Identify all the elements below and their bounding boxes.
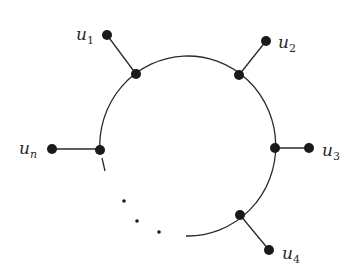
cycle-vertex-n xyxy=(95,145,105,155)
pendant-vertex-un xyxy=(47,144,57,154)
label-un: un xyxy=(19,138,37,161)
label-u2: u2 xyxy=(278,32,296,55)
label-u4: u4 xyxy=(282,243,300,266)
label-u1: u1 xyxy=(76,24,94,47)
pendant-vertex-u2 xyxy=(261,36,271,46)
pendant-vertex-u1 xyxy=(102,30,112,40)
cycle-vertex-1 xyxy=(131,69,141,79)
cycle-arc-stub xyxy=(102,158,105,171)
label-u3: u3 xyxy=(322,140,340,163)
cycle-vertex-4 xyxy=(235,210,245,220)
ellipsis-dot-1 xyxy=(122,199,126,203)
pendant-vertex-u4 xyxy=(264,245,274,255)
pendant-vertex-u3 xyxy=(304,143,314,153)
ellipsis-dot-3 xyxy=(157,230,161,234)
cycle-arc xyxy=(100,56,276,236)
edge-u2 xyxy=(239,41,266,75)
edge-u4 xyxy=(240,215,269,250)
cycle-vertex-3 xyxy=(270,143,280,153)
cycle-graph-diagram: u1 u2 u3 u4 un xyxy=(0,0,361,272)
edge-u1 xyxy=(107,35,136,74)
cycle-vertex-2 xyxy=(234,70,244,80)
ellipsis-dot-2 xyxy=(135,219,139,223)
